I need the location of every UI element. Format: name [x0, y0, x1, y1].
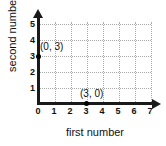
x-tick-label-1: 1: [48, 106, 60, 116]
x-tick-label-5: 5: [112, 106, 124, 116]
gridline-vertical-1: [55, 22, 56, 104]
y-tick-label-4: 4: [25, 35, 35, 45]
gridline-vertical-7: [151, 22, 152, 104]
point-label-0-3: (0, 3): [40, 41, 63, 52]
y-tick-label-1: 1: [25, 83, 35, 93]
gridline-vertical-2: [71, 22, 72, 104]
x-tick-label-3: 3: [80, 106, 92, 116]
gridline-horizontal-3: [39, 56, 151, 57]
y-axis-line: [37, 16, 40, 105]
y-tick-label-5: 5: [25, 19, 35, 29]
x-tick-label-7: 7: [144, 106, 156, 116]
gridline-horizontal-2: [39, 72, 151, 73]
y-axis-title: second number: [6, 0, 18, 84]
y-axis-arrow-icon: [33, 9, 43, 18]
data-point-0-3[interactable]: [36, 54, 41, 59]
gridline-vertical-5: [119, 22, 120, 104]
x-tick-label-0: 0: [32, 106, 44, 116]
point-label-3-0: (3, 0): [80, 88, 103, 99]
x-tick-label-6: 6: [128, 106, 140, 116]
x-tick-label-2: 2: [64, 106, 76, 116]
coordinate-plane-figure: second number first number 0 1 2 3 4 5 6…: [0, 0, 166, 146]
data-point-3-0[interactable]: [84, 101, 89, 106]
x-tick-label-4: 4: [96, 106, 108, 116]
y-tick-label-3: 3: [25, 51, 35, 61]
x-axis-title: first number: [30, 126, 160, 138]
gridline-horizontal-5: [39, 24, 151, 25]
y-tick-label-2: 2: [25, 67, 35, 77]
x-axis-line: [37, 102, 154, 105]
gridline-vertical-6: [135, 22, 136, 104]
